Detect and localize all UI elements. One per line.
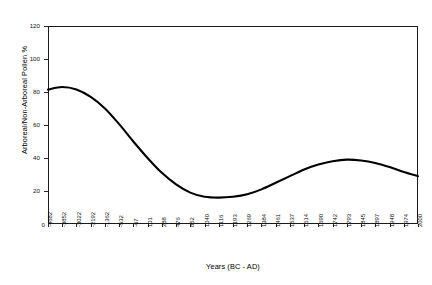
x-axis-tick-label: 1897 (374, 214, 380, 227)
x-axis-tick-label: 1384 (261, 214, 267, 227)
x-axis-tick-label: -67 (133, 218, 139, 227)
x-axis-tick-label: 1793 (346, 214, 352, 227)
x-axis-tick-label: 1974 (403, 214, 409, 227)
x-axis-tick-label: 1948 (389, 214, 395, 227)
x-axis-tick-label: 1461 (275, 214, 281, 227)
x-axis-tick-label: 476 (175, 217, 181, 227)
x-axis-tick-label: -3022 (76, 212, 82, 227)
y-axis-zero-label: 0 (33, 221, 45, 228)
x-axis-tick-label: 288 (161, 217, 167, 227)
x-axis-tick-label: 852 (189, 217, 195, 227)
x-axis-tick-label: 1193 (232, 214, 238, 227)
x-axis-tick-label: -2192 (90, 212, 96, 227)
x-axis-tick-label: 1690 (318, 214, 324, 227)
x-axis-tick-label: 1845 (360, 214, 366, 227)
x-axis-tick-label: -532 (118, 215, 124, 227)
x-axis-tick-label: 101 (147, 217, 153, 227)
x-axis-tick-label: 1614 (303, 214, 309, 227)
x-axis-tick-label: -1362 (104, 212, 110, 227)
x-axis-tick-label: 1537 (289, 214, 295, 227)
x-axis-tick-label: 2000 (417, 214, 423, 227)
x-axis-tick-label: 1269 (246, 214, 252, 227)
x-axis-tick-label: 1040 (204, 214, 210, 227)
pollen-percentage-chart: Arboreal/Non-Arboreal Pollen % 204060801… (0, 0, 432, 285)
x-axis-tick-label: -3852 (61, 212, 67, 227)
x-axis-title: Years (BC - AD) (48, 262, 418, 271)
x-axis-tick-label: 1116 (218, 215, 224, 227)
x-axis-tick-label: 1742 (332, 214, 338, 227)
x-axis-tick-group: -4682-3852-3022-2192-1362-532-6710128847… (0, 0, 432, 285)
x-axis-tick-label: -4682 (47, 212, 53, 227)
